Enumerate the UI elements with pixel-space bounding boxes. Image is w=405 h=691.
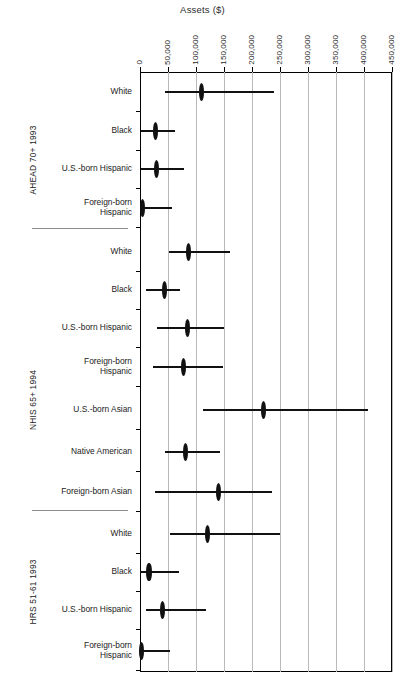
row-label: U.S.-born Hispanic (48, 322, 132, 333)
x-tick-label: 50,000 (163, 40, 172, 65)
row-label: U.S.-born Asian (48, 404, 132, 415)
group-separator (32, 228, 128, 229)
x-tick (308, 67, 309, 72)
gridline (364, 72, 365, 672)
y-tick (136, 150, 140, 151)
confidence-interval-line (153, 366, 223, 369)
point-estimate-marker (153, 122, 158, 140)
point-estimate-marker (186, 243, 191, 261)
confidence-interval-line (141, 168, 184, 171)
row-label: Foreign-born Asian (48, 486, 132, 497)
row-label: U.S.-born Hispanic (48, 163, 132, 174)
row-label: Foreign-born Hispanic (48, 197, 132, 218)
y-tick (136, 347, 140, 348)
point-estimate-marker (181, 358, 186, 376)
y-tick (136, 271, 140, 272)
x-tick-label: 100,000 (191, 35, 200, 65)
gridline (308, 72, 309, 672)
y-tick (136, 429, 140, 430)
assets-chart: Assets ($) 050,000100,000150,000200,0002… (0, 0, 405, 691)
x-tick (224, 67, 225, 72)
row-label: Native American (48, 446, 132, 457)
confidence-interval-line (203, 409, 368, 412)
x-tick-label: 400,000 (359, 35, 368, 65)
point-estimate-marker (160, 601, 165, 619)
row-label: Foreign-born Hispanic (48, 640, 132, 661)
group-label: NHIS 65+ 1994 (28, 370, 38, 430)
y-tick (136, 227, 140, 228)
gridline (168, 72, 169, 672)
chart-title: Assets ($) (0, 4, 405, 15)
group-label: AHEAD 70+ 1993 (28, 125, 38, 194)
y-tick (136, 309, 140, 310)
plot-area (140, 72, 392, 672)
gridline (392, 72, 393, 672)
y-tick (136, 553, 140, 554)
confidence-interval-line (155, 491, 271, 494)
point-estimate-marker (261, 401, 266, 419)
x-tick-label: 0 (135, 60, 144, 65)
y-tick (136, 386, 140, 387)
row-label: Black (48, 284, 132, 295)
x-tick (252, 67, 253, 72)
row-label: Black (48, 566, 132, 577)
confidence-interval-line (169, 251, 229, 254)
confidence-interval-line (140, 650, 170, 653)
row-label: White (48, 86, 132, 97)
row-label: Black (48, 125, 132, 136)
y-tick (136, 111, 140, 112)
row-label: Foreign-born Hispanic (48, 356, 132, 377)
x-tick (392, 67, 393, 72)
row-label: White (48, 528, 132, 539)
gridline (224, 72, 225, 672)
row-label: U.S.-born Hispanic (48, 604, 132, 615)
group-separator (32, 510, 128, 511)
point-estimate-marker (216, 483, 221, 501)
y-tick (136, 188, 140, 189)
x-tick-label: 450,000 (387, 35, 396, 65)
x-tick (364, 67, 365, 72)
gridline (336, 72, 337, 672)
x-tick-label: 250,000 (275, 35, 284, 65)
row-label: White (48, 246, 132, 257)
x-tick-label: 350,000 (331, 35, 340, 65)
x-tick-label: 200,000 (247, 35, 256, 65)
gridline (280, 72, 281, 672)
x-tick-label: 150,000 (219, 35, 228, 65)
confidence-interval-line (165, 91, 274, 94)
x-tick (168, 67, 169, 72)
x-tick-label: 300,000 (303, 35, 312, 65)
confidence-interval-line (170, 533, 280, 536)
point-estimate-marker (140, 199, 145, 217)
y-tick (136, 629, 140, 630)
confidence-interval-line (157, 327, 224, 330)
point-estimate-marker (146, 563, 151, 581)
y-tick (136, 511, 140, 512)
group-label: HRS 51-61 1993 (28, 559, 38, 624)
gridline (252, 72, 253, 672)
x-tick (196, 67, 197, 72)
gridline (196, 72, 197, 672)
confidence-interval-line (141, 130, 175, 133)
point-estimate-marker (183, 443, 188, 461)
x-tick (140, 67, 141, 72)
confidence-interval-line (146, 609, 206, 612)
confidence-interval-line (165, 451, 219, 454)
x-tick (336, 67, 337, 72)
y-tick (136, 471, 140, 472)
y-tick (136, 591, 140, 592)
x-tick (280, 67, 281, 72)
y-tick (136, 670, 140, 671)
